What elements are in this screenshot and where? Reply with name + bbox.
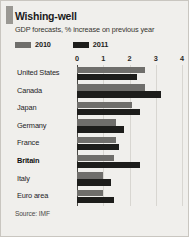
chart-legend: 2010 2011 xyxy=(15,40,183,49)
source-note: Source: IMF xyxy=(15,210,183,217)
bar-row: Canada xyxy=(15,83,183,101)
legend-swatch-2011 xyxy=(73,42,89,48)
bar-2010 xyxy=(77,102,132,108)
bar-row: United States xyxy=(15,65,183,83)
category-label: United States xyxy=(17,68,77,77)
category-label: Japan xyxy=(17,103,77,112)
category-label: Canada xyxy=(17,86,77,95)
plot-wrap: 01234 United StatesCanadaJapanGermanyFra… xyxy=(15,54,183,206)
category-label: Britain xyxy=(17,156,77,165)
bar-2010 xyxy=(77,67,145,73)
bar-row: Germany xyxy=(15,118,183,136)
bar-2011 xyxy=(77,74,137,80)
bar-rows: United StatesCanadaJapanGermanyFranceBri… xyxy=(15,65,183,206)
bar-2011 xyxy=(77,162,140,168)
bar-2010 xyxy=(77,84,145,90)
bar-2010 xyxy=(77,137,116,143)
bar-row: Italy xyxy=(15,171,183,189)
bar-row: Euro area xyxy=(15,188,183,206)
legend-item-2010: 2010 xyxy=(15,40,51,49)
corner-marker xyxy=(6,6,13,24)
bar-2010 xyxy=(77,155,114,161)
x-tick-label: 3 xyxy=(154,54,158,63)
bar-2011 xyxy=(77,197,114,203)
card-inner: Wishing-well GDP forecasts, % increase o… xyxy=(15,7,183,232)
bar-row: France xyxy=(15,135,183,153)
bar-2010 xyxy=(77,172,103,178)
bar-2011 xyxy=(77,126,124,132)
chart-subtitle: GDP forecasts, % increase on previous ye… xyxy=(15,25,183,34)
category-label: Italy xyxy=(17,174,77,183)
bar-2011 xyxy=(77,109,140,115)
plot-area: United StatesCanadaJapanGermanyFranceBri… xyxy=(15,65,183,206)
bar-2011 xyxy=(77,179,111,185)
bar-2011 xyxy=(77,144,119,150)
x-tick-label: 0 xyxy=(75,54,79,63)
x-tick-label: 2 xyxy=(127,54,131,63)
category-label: France xyxy=(17,138,77,147)
bar-2011 xyxy=(77,91,161,97)
bar-2010 xyxy=(77,190,103,196)
chart-card: Wishing-well GDP forecasts, % increase o… xyxy=(0,0,189,237)
chart-title: Wishing-well xyxy=(15,10,183,22)
x-tick-label: 4 xyxy=(180,54,184,63)
legend-swatch-2010 xyxy=(15,42,31,48)
bar-row: Japan xyxy=(15,100,183,118)
category-label: Germany xyxy=(17,121,77,130)
legend-label-2010: 2010 xyxy=(35,40,51,49)
x-tick-label: 1 xyxy=(101,54,105,63)
bar-2010 xyxy=(77,119,116,125)
x-axis: 01234 xyxy=(15,54,183,65)
bar-row: Britain xyxy=(15,153,183,171)
legend-label-2011: 2011 xyxy=(93,40,108,49)
legend-item-2011: 2011 xyxy=(73,40,108,49)
category-label: Euro area xyxy=(17,191,77,200)
